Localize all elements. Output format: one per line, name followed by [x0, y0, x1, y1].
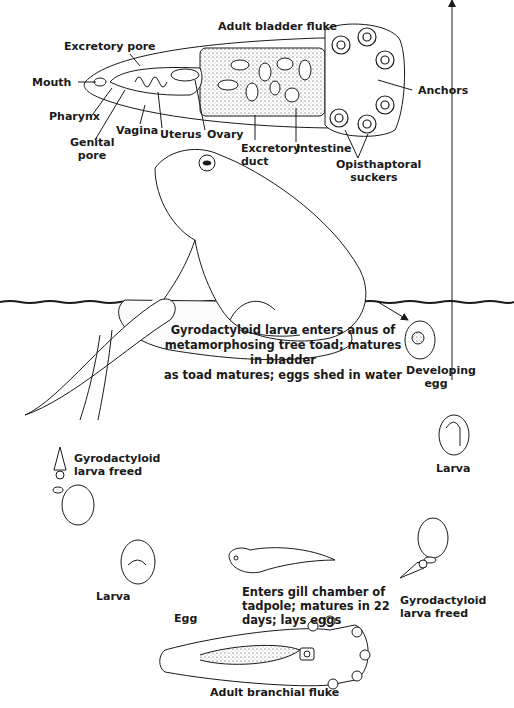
developing-egg-drawing	[405, 321, 435, 359]
label-suckers-line1: Opisthaptoral	[336, 158, 412, 171]
label-tadpole-caption-line3: days; lays eggs	[242, 613, 390, 627]
label-larva-left: Larva	[96, 590, 130, 603]
label-gyro-left-line2: larva freed	[74, 465, 160, 478]
label-gyro-larva-left: Gyrodactyloid larva freed	[74, 452, 160, 478]
metamorphosing-tadpole-drawing	[25, 299, 175, 420]
label-intestine: Intestine	[296, 142, 352, 155]
label-vagina: Vagina	[116, 124, 158, 137]
larva-egg-left-drawing	[121, 540, 155, 584]
label-genital-pore: Genital pore	[70, 136, 114, 162]
label-egg: Egg	[174, 612, 197, 625]
label-anchors: Anchors	[418, 84, 468, 97]
tadpole-drawing	[229, 548, 335, 573]
label-opisthaptoral-suckers: Opisthaptoral suckers	[336, 158, 412, 184]
label-gyro-right-line1: Gyrodactyloid	[400, 594, 486, 607]
label-suckers-line2: suckers	[336, 171, 412, 184]
label-gyro-larva-right: Gyrodactyloid larva freed	[400, 594, 486, 620]
toad-caption-line2: metamorphosing tree toad; matures in bla…	[160, 338, 406, 368]
label-developing-egg-line2: egg	[406, 377, 466, 390]
label-mouth: Mouth	[32, 76, 71, 89]
toad-caption-line3: as toad matures; eggs shed in water	[160, 368, 406, 383]
label-adult-branchial-fluke: Adult branchial fluke	[210, 686, 339, 699]
label-excretory-duct-line1: Excretory	[241, 142, 300, 155]
label-excretory-duct: Excretory duct	[241, 142, 300, 168]
label-tadpole-caption-line2: tadpole; matures in 22	[242, 599, 390, 613]
hatched-egg-right-drawing	[418, 518, 448, 563]
label-genital-pore-line1: Genital	[70, 136, 114, 149]
gyro-larva-left-drawing	[54, 447, 66, 479]
larva-egg-right-drawing	[439, 415, 469, 455]
label-larva-right: Larva	[436, 462, 470, 475]
label-excretory-duct-line2: duct	[241, 155, 300, 168]
label-ovary: Ovary	[207, 128, 244, 141]
label-genital-pore-line2: pore	[70, 149, 114, 162]
label-uterus: Uterus	[160, 128, 201, 141]
label-gyro-left-line1: Gyrodactyloid	[74, 452, 160, 465]
label-pharynx: Pharynx	[49, 110, 100, 123]
toad-caption-line1: Gyrodactyloid larva enters anus of	[160, 323, 406, 338]
gyro-larva-right-drawing	[400, 560, 427, 578]
label-excretory-pore: Excretory pore	[64, 40, 156, 53]
label-tadpole-caption: Enters gill chamber of tadpole; matures …	[242, 585, 390, 627]
label-developing-egg: Developing egg	[406, 364, 466, 390]
label-tadpole-caption-line1: Enters gill chamber of	[242, 585, 390, 599]
label-adult-bladder-fluke: Adult bladder fluke	[218, 20, 337, 33]
toad-caption: Gyrodactyloid larva enters anus of metam…	[160, 323, 406, 383]
label-gyro-right-line2: larva freed	[400, 607, 486, 620]
hatched-egg-left-drawing	[53, 485, 94, 525]
label-developing-egg-line1: Developing	[406, 364, 466, 377]
